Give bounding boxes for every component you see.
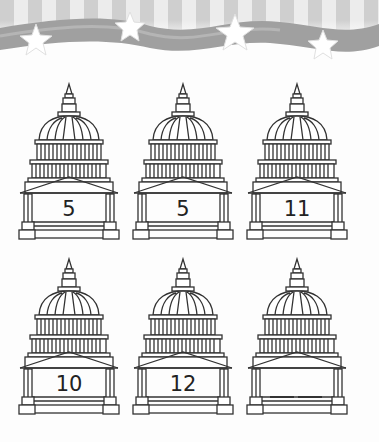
blank-line-tens — [270, 396, 294, 398]
capitol-building-icon — [246, 255, 348, 415]
capitol-card-2: 5 — [132, 80, 234, 240]
sequence-number: 5 — [132, 197, 234, 221]
sequence-number: 5 — [18, 197, 120, 221]
capitol-card-5: 12 — [132, 255, 234, 415]
capitol-card-6 — [246, 255, 348, 415]
sequence-number: 10 — [18, 372, 120, 396]
blank-line-ones — [298, 396, 322, 398]
sequence-number: 11 — [246, 197, 348, 221]
capitol-card-3: 11 — [246, 80, 348, 240]
sequence-number: 12 — [132, 372, 234, 396]
answer-blank[interactable] — [270, 396, 324, 398]
stars-stripes-banner — [0, 0, 379, 70]
capitol-card-4: 10 — [18, 255, 120, 415]
capitol-card-1: 5 — [18, 80, 120, 240]
